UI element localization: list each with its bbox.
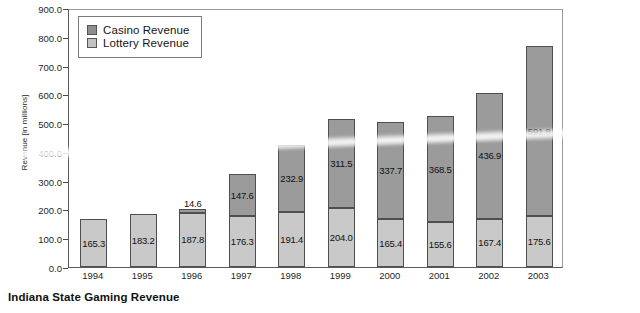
bar-segment-casino[interactable]: 147.6	[229, 174, 256, 216]
bar-stack[interactable]: 155.6368.5	[427, 116, 454, 267]
legend-item-lottery: Lottery Revenue	[87, 37, 189, 49]
x-axis-tick-label: 1997	[231, 270, 252, 281]
y-axis-tick-label: 300.0	[18, 176, 62, 187]
legend-swatch-casino-icon	[87, 25, 97, 35]
bar-segment-lottery[interactable]: 155.6	[427, 222, 454, 267]
y-axis-tick-label: 0.0	[18, 263, 62, 274]
bar-stack[interactable]: 165.4337.7	[377, 122, 404, 267]
bar-value-label-casino: 337.7	[379, 165, 402, 176]
legend-label-lottery: Lottery Revenue	[103, 37, 189, 49]
bar-value-label-lottery: 187.8	[181, 234, 204, 245]
y-axis-tick-label: 700.0	[18, 61, 62, 72]
y-axis-tick-mark	[63, 124, 68, 125]
y-axis-tick-mark	[63, 268, 68, 269]
bar-segment-lottery[interactable]: 165.4	[377, 219, 404, 267]
bar-value-label-casino: 368.5	[429, 164, 452, 175]
y-axis-tick-mark	[63, 38, 68, 39]
bar-value-label-lottery: 176.3	[231, 236, 254, 247]
bar-value-label-casino: 591.8	[528, 126, 551, 137]
y-axis-tick-mark	[63, 182, 68, 183]
x-axis-tick-label: 2002	[478, 270, 499, 281]
bar-stack[interactable]: 191.4232.9	[278, 145, 305, 267]
bar-segment-casino[interactable]: 232.9	[278, 145, 305, 212]
bar-segment-casino[interactable]: 14.6	[179, 209, 206, 213]
bar-value-label-lottery: 183.2	[132, 235, 155, 246]
y-axis-tick-label: 500.0	[18, 119, 62, 130]
bar-segment-casino[interactable]: 368.5	[427, 116, 454, 222]
y-axis-tick-label: 100.0	[18, 234, 62, 245]
bar-value-label-lottery: 175.6	[528, 236, 551, 247]
y-axis-tick-mark	[63, 9, 68, 10]
bar-stack[interactable]: 165.3	[80, 219, 107, 267]
bar-segment-lottery[interactable]: 175.6	[526, 216, 553, 267]
y-axis-tick-mark	[63, 153, 68, 154]
y-axis-tick-label: 400.0	[18, 147, 62, 158]
bar-segment-casino[interactable]: 591.8	[526, 46, 553, 216]
x-axis-tick-label: 2001	[429, 270, 450, 281]
bar-value-label-lottery: 204.0	[330, 232, 353, 243]
bar-segment-casino[interactable]: 436.9	[476, 93, 503, 219]
bar-segment-casino[interactable]: 311.5	[328, 119, 355, 209]
bar-segment-lottery[interactable]: 191.4	[278, 212, 305, 267]
x-axis-tick-labels: 1994199519961997199819992000200120022003	[68, 270, 563, 288]
x-axis-tick-label: 2000	[379, 270, 400, 281]
legend-label-casino: Casino Revenue	[103, 24, 189, 36]
x-axis-tick-label: 1999	[330, 270, 351, 281]
bar-segment-casino[interactable]: 337.7	[377, 122, 404, 219]
bar-value-label-casino: 232.9	[280, 173, 303, 184]
bar-stack[interactable]: 204.0311.5	[328, 119, 355, 267]
y-axis-tick-mark	[63, 67, 68, 68]
bar-value-label-casino: 436.9	[478, 150, 501, 161]
x-axis-tick-label: 1998	[280, 270, 301, 281]
y-axis-tick-label: 200.0	[18, 205, 62, 216]
bar-value-label-casino: 14.6	[184, 198, 202, 209]
bar-segment-lottery[interactable]: 187.8	[179, 213, 206, 267]
y-axis-tick-label: 600.0	[18, 90, 62, 101]
figure-caption: Indiana State Gaming Revenue	[8, 291, 180, 303]
y-axis-tick-mark	[63, 95, 68, 96]
bar-stack[interactable]: 176.3147.6	[229, 174, 256, 267]
chart-legend: Casino Revenue Lottery Revenue	[78, 16, 202, 58]
x-axis-tick-label: 2003	[528, 270, 549, 281]
x-axis-tick-label: 1995	[132, 270, 153, 281]
bar-value-label-casino: 147.6	[231, 190, 254, 201]
bar-value-label-lottery: 155.6	[429, 239, 452, 250]
bar-segment-lottery[interactable]: 167.4	[476, 219, 503, 267]
bar-segment-lottery[interactable]: 176.3	[229, 216, 256, 267]
bar-value-label-lottery: 165.4	[379, 238, 402, 249]
y-axis-tick-mark	[63, 239, 68, 240]
bar-segment-lottery[interactable]: 165.3	[80, 219, 107, 267]
bar-stack[interactable]: 175.6591.8	[526, 46, 553, 267]
x-axis-tick-label: 1994	[82, 270, 103, 281]
legend-swatch-lottery-icon	[87, 38, 97, 48]
y-axis-tick-label: 800.0	[18, 32, 62, 43]
bar-value-label-lottery: 191.4	[280, 234, 303, 245]
bar-stack[interactable]: 187.814.6	[179, 209, 206, 267]
bar-value-label-lottery: 165.3	[82, 238, 105, 249]
y-axis-tick-mark	[63, 210, 68, 211]
bar-value-label-casino: 311.5	[330, 158, 352, 169]
y-axis-tick-label: 900.0	[18, 4, 62, 15]
bar-segment-lottery[interactable]: 204.0	[328, 208, 355, 267]
x-axis-tick-label: 1996	[181, 270, 202, 281]
legend-item-casino: Casino Revenue	[87, 24, 189, 36]
y-axis-tick-labels: 0.0100.0200.0300.0400.0500.0600.0700.080…	[18, 0, 62, 313]
bar-stack[interactable]: 183.2	[130, 214, 157, 267]
bar-stack[interactable]: 167.4436.9	[476, 93, 503, 267]
bar-value-label-lottery: 167.4	[478, 237, 501, 248]
bar-segment-lottery[interactable]: 183.2	[130, 214, 157, 267]
